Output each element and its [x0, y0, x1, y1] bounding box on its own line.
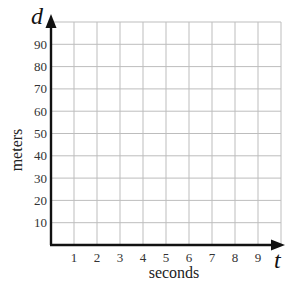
x-tick-label: 2	[94, 250, 101, 265]
x-tick-label: 7	[209, 250, 216, 265]
x-tick-label: 9	[255, 250, 262, 265]
x-tick-labels: 123456789	[71, 250, 262, 265]
x-tick-label: 5	[163, 250, 170, 265]
y-tick-label: 60	[34, 104, 47, 119]
y-tick-labels: 102030405060708090	[34, 37, 47, 230]
y-tick-label: 70	[34, 81, 47, 96]
y-tick-label: 10	[34, 215, 47, 230]
x-tick-label: 3	[117, 250, 124, 265]
y-tick-label: 40	[34, 148, 47, 163]
y-tick-label: 50	[34, 126, 47, 141]
y-tick-label: 30	[34, 171, 47, 186]
x-tick-label: 8	[232, 250, 239, 265]
y-tick-label: 80	[34, 59, 47, 74]
x-tick-label: 4	[140, 250, 147, 265]
y-tick-label: 20	[34, 193, 47, 208]
y-axis-title: meters	[8, 129, 25, 172]
y-axis-arrow-icon	[46, 14, 57, 28]
y-variable-label: d	[31, 3, 44, 29]
distance-time-grid-chart: 123456789 102030405060708090 d t seconds…	[0, 0, 295, 286]
grid-lines	[51, 22, 281, 245]
x-tick-label: 6	[186, 250, 193, 265]
x-axis-title: seconds	[149, 264, 200, 281]
x-tick-label: 1	[71, 250, 78, 265]
x-variable-label: t	[274, 247, 282, 273]
y-tick-label: 90	[34, 37, 47, 52]
